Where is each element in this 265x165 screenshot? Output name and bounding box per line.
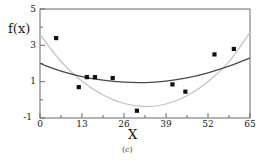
data-point xyxy=(77,85,81,89)
data-point xyxy=(54,36,58,40)
data-point xyxy=(232,47,236,51)
y-tick-label-5: 5 xyxy=(22,5,36,14)
x-tick-label-39: 39 xyxy=(156,120,176,129)
x-axis-ticks xyxy=(40,113,250,118)
data-point xyxy=(135,109,139,113)
data-point xyxy=(212,52,216,56)
data-point xyxy=(170,82,174,86)
figure-panel: f(x) X (c) 5 3 1 -1 0 13 26 39 52 65 xyxy=(0,0,265,165)
x-tick-label-0: 0 xyxy=(30,120,50,129)
x-axis-label: X xyxy=(128,128,137,141)
x-tick-label-65: 65 xyxy=(240,120,260,129)
fitted-curve-dark xyxy=(40,58,250,83)
y-axis-label: f(x) xyxy=(8,22,30,35)
data-point xyxy=(183,90,187,94)
data-point xyxy=(111,76,115,80)
x-tick-label-26: 26 xyxy=(114,120,134,129)
x-tick-label-13: 13 xyxy=(72,120,92,129)
x-tick-label-52: 52 xyxy=(198,120,218,129)
axis-frame xyxy=(40,9,250,118)
data-point xyxy=(93,75,97,79)
y-tick-label-3: 3 xyxy=(22,41,36,50)
data-point xyxy=(85,75,89,79)
figure-caption: (c) xyxy=(122,146,133,154)
y-tick-label-1: 1 xyxy=(22,77,36,86)
data-point-markers xyxy=(54,36,236,113)
